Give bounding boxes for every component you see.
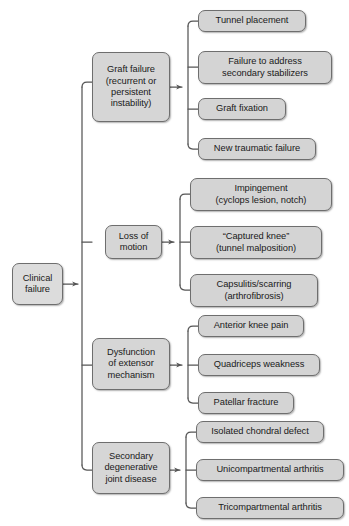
flowchart-diagram: Clinical failure Graft failure (recurren… xyxy=(0,0,349,526)
node-captured-knee[interactable]: “Captured knee” (tunnel malposition) xyxy=(190,226,322,259)
edge-anterior-knee-pain xyxy=(188,326,198,331)
node-capsulitis-scarring[interactable]: Capsulitis/scarring (arthrofibrosis) xyxy=(190,274,318,307)
node-failure-to-address-secondary-stabilizers[interactable]: Failure to address secondary stabilizers xyxy=(198,51,332,84)
node-dysfunction-of-extensor-mechanism[interactable]: Dysfunction of extensor mechanism xyxy=(92,338,170,390)
node-tunnel-placement[interactable]: Tunnel placement xyxy=(198,10,306,32)
node-anterior-knee-pain[interactable]: Anterior knee pain xyxy=(198,315,304,337)
edge-tunnel-placement xyxy=(188,21,198,26)
edge-capsulitis xyxy=(180,285,190,290)
node-secondary-degenerative-joint-disease[interactable]: Secondary degenerative joint disease xyxy=(92,442,170,494)
node-graft-failure[interactable]: Graft failure (recurrent or persistent i… xyxy=(92,52,170,122)
edge-trunk-graft-failure xyxy=(82,82,92,87)
node-tricompartmental-arthritis[interactable]: Tricompartmental arthritis xyxy=(196,497,344,519)
node-impingement[interactable]: Impingement (cyclops lesion, notch) xyxy=(190,178,332,211)
edge-new-traumatic-failure xyxy=(188,144,198,149)
edge-patellar-fracture xyxy=(188,398,198,403)
node-isolated-chondral-defect[interactable]: Isolated chondral defect xyxy=(196,421,324,443)
node-patellar-fracture[interactable]: Patellar fracture xyxy=(198,392,294,414)
node-loss-of-motion[interactable]: Loss of motion xyxy=(105,225,162,259)
node-quadriceps-weakness[interactable]: Quadriceps weakness xyxy=(198,354,320,376)
edge-isolated-chondral-defect xyxy=(186,432,196,437)
edge-trunk-degenerative xyxy=(82,465,92,470)
node-new-traumatic-failure[interactable]: New traumatic failure xyxy=(198,138,316,160)
node-clinical-failure[interactable]: Clinical failure xyxy=(12,263,63,305)
edge-impingement xyxy=(180,194,190,199)
node-graft-fixation[interactable]: Graft fixation xyxy=(198,98,286,120)
node-unicompartmental-arthritis[interactable]: Unicompartmental arthritis xyxy=(196,459,344,481)
edge-tricompartmental-arthritis xyxy=(186,503,196,508)
